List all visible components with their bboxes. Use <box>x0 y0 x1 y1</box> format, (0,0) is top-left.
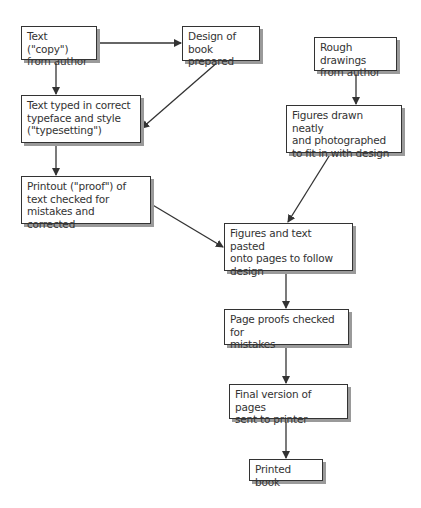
flow-node-n3: Rough drawingsfrom author <box>314 37 397 71</box>
node-text-line: typeface and style <box>27 112 135 125</box>
node-text-line: Rough drawings <box>320 41 391 66</box>
flow-node-n10: Printed book <box>249 459 323 481</box>
node-text-line: Page proofs checked for <box>230 313 343 338</box>
node-text-line: design <box>230 265 347 278</box>
node-text-line: mistakes and corrected <box>27 205 145 230</box>
node-text-line: Text typed in correct <box>27 99 135 112</box>
flow-node-n8: Page proofs checked formistakes <box>224 309 349 345</box>
flow-node-n6: Printout ("proof") oftext checked formis… <box>21 176 151 224</box>
node-text-line: book prepared <box>188 43 254 68</box>
node-text-line: Design of <box>188 30 254 43</box>
node-text-line: text checked for <box>27 193 145 206</box>
node-text-line: from author <box>27 55 91 68</box>
node-text-line: Final version of pages <box>235 388 342 413</box>
arrow-n4-to-n7 <box>288 153 331 222</box>
node-text-line: sent to printer <box>235 413 342 426</box>
node-text-line: ("typesetting") <box>27 124 135 137</box>
node-text-line: from author <box>320 66 391 79</box>
flow-node-n5: Text typed in correcttypeface and style(… <box>21 95 141 143</box>
flow-node-n4: Figures drawn neatlyand photographedto f… <box>286 105 402 153</box>
arrow-n6-to-n7 <box>151 204 223 247</box>
flow-node-n2: Design ofbook prepared <box>182 26 260 61</box>
node-text-line: Figures and text pasted <box>230 227 347 252</box>
node-text-line: to fit in with design <box>292 147 396 160</box>
node-text-line: and photographed <box>292 134 396 147</box>
flow-node-n9: Final version of pagessent to printer <box>229 384 348 419</box>
node-text-line: onto pages to follow <box>230 252 347 265</box>
flow-node-n1: Text ("copy")from author <box>21 26 97 60</box>
node-text-line: Printed book <box>255 463 317 488</box>
flow-node-n7: Figures and text pastedonto pages to fol… <box>224 223 353 271</box>
arrow-n2-to-n5 <box>142 61 219 128</box>
node-text-line: Text ("copy") <box>27 30 91 55</box>
node-text-line: Figures drawn neatly <box>292 109 396 134</box>
node-text-line: mistakes <box>230 338 343 351</box>
node-text-line: Printout ("proof") of <box>27 180 145 193</box>
